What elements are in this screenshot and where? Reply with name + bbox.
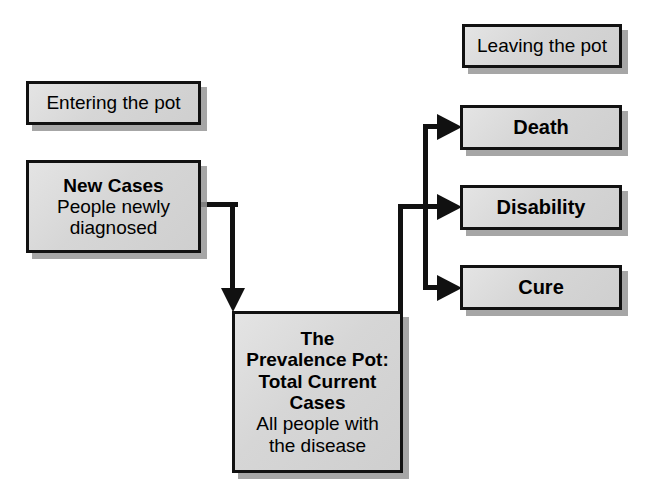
- prevalence-pot-diagram: Entering the pot New Cases People newly …: [0, 0, 650, 493]
- node-prevalence-pot-line-5: All people with: [256, 413, 379, 434]
- arrowhead-into-death: [437, 114, 462, 140]
- node-entering-the-pot: Entering the pot: [26, 81, 201, 125]
- node-death-line-1: Death: [513, 116, 569, 138]
- node-death: Death: [460, 105, 622, 150]
- node-prevalence-pot-line-1: The: [301, 328, 335, 349]
- edge-pot-trunk-vertical: [398, 204, 403, 314]
- arrowhead-into-cure: [437, 275, 462, 301]
- node-cure-line-1: Cure: [518, 276, 564, 298]
- edge-newcases-to-pot-vertical: [230, 202, 235, 290]
- node-entering-line-1: Entering the pot: [46, 92, 180, 113]
- node-prevalence-pot: The Prevalence Pot: Total Current Cases …: [232, 311, 403, 473]
- node-new-cases-line-1: New Cases: [63, 175, 163, 196]
- node-leaving-line-1: Leaving the pot: [477, 35, 607, 56]
- node-disability: Disability: [460, 185, 622, 230]
- node-new-cases-line-3: diagnosed: [70, 217, 158, 238]
- arrowhead-into-disability: [437, 194, 462, 220]
- node-new-cases: New Cases People newly diagnosed: [26, 160, 201, 253]
- arrowhead-into-pot: [221, 288, 245, 312]
- node-disability-line-1: Disability: [497, 196, 586, 218]
- node-prevalence-pot-line-6: the disease: [269, 435, 366, 456]
- node-new-cases-line-2: People newly: [57, 196, 170, 217]
- node-prevalence-pot-line-2: Prevalence Pot:: [246, 349, 389, 370]
- node-leaving-the-pot: Leaving the pot: [462, 24, 622, 68]
- node-prevalence-pot-line-3: Total Current: [259, 371, 377, 392]
- node-prevalence-pot-line-4: Cases: [290, 392, 346, 413]
- node-cure: Cure: [460, 265, 622, 310]
